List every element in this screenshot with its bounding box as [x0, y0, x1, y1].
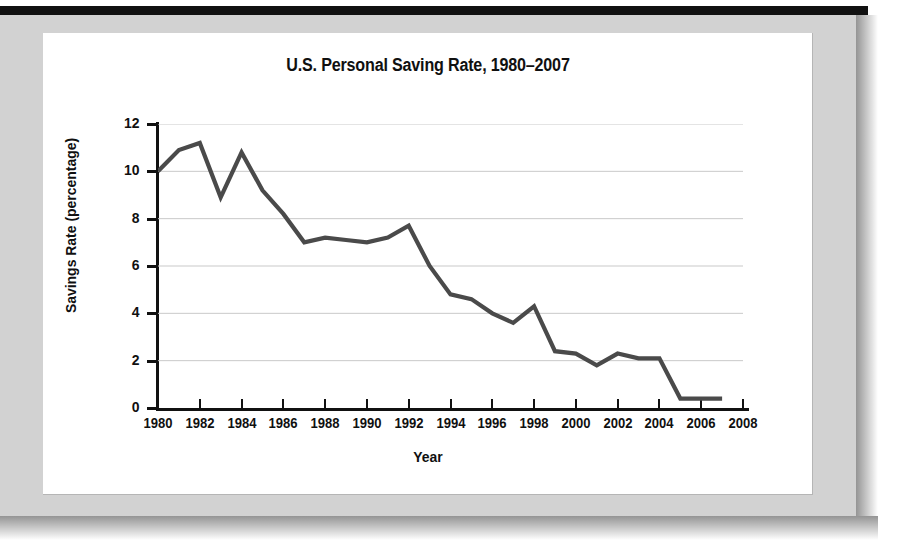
plot-area [158, 124, 743, 408]
x-axis-title: Year [70, 448, 786, 465]
y-tick-mark [147, 265, 158, 268]
chart-card: U.S. Personal Saving Rate, 1980–2007 Sav… [43, 33, 813, 495]
y-tick-mark [147, 170, 158, 173]
y-tick-label: 4 [102, 303, 139, 320]
y-tick-label: 0 [102, 398, 139, 415]
figure-frame: U.S. Personal Saving Rate, 1980–2007 Sav… [0, 0, 871, 516]
top-rule-divider [0, 6, 868, 15]
y-tick-mark [147, 123, 158, 126]
y-tick-mark [147, 360, 158, 363]
y-tick-label: 10 [102, 161, 139, 178]
y-tick-mark [147, 312, 158, 315]
y-tick-label: 12 [102, 114, 139, 131]
y-axis-title: Savings Rate (percentage) [62, 105, 79, 347]
y-tick-label: 2 [102, 351, 139, 368]
y-tick-label: 8 [102, 209, 139, 226]
x-tick-label: 2008 [719, 415, 768, 431]
frame-shadow-bottom [0, 516, 878, 540]
y-tick-mark [147, 218, 158, 221]
line-chart-svg [158, 124, 743, 408]
y-tick-label: 6 [102, 256, 139, 273]
chart-title: U.S. Personal Saving Rate, 1980–2007 [74, 55, 782, 76]
frame-shadow-right [856, 15, 878, 516]
